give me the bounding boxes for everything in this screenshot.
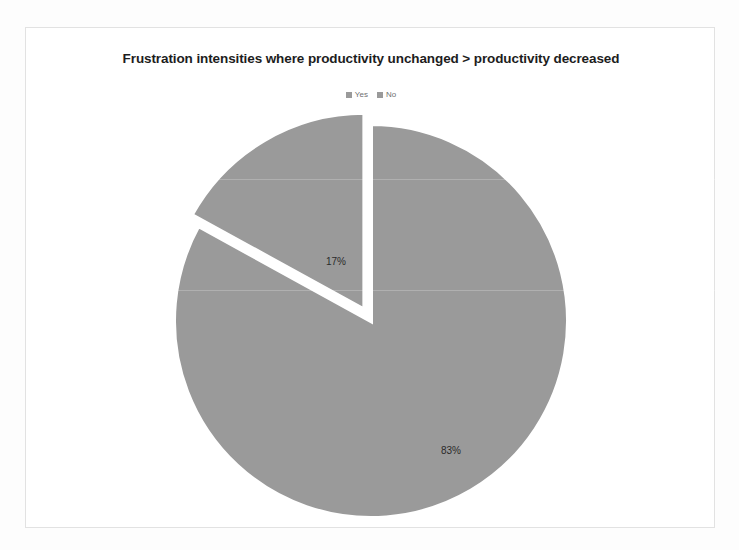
pie-plot-area: 17% 83%: [26, 28, 716, 529]
pie-label-no: 17%: [326, 256, 346, 267]
chart-frame: Frustration intensities where productivi…: [25, 27, 715, 528]
pie-chart-graphic: [26, 28, 716, 529]
pie-label-yes: 83%: [441, 445, 461, 456]
